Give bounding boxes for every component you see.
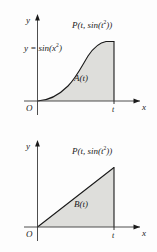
triangle-area-figure: y x O t P(t, sin(t2)) B(t) [0,126,157,252]
x-axis-label: x [142,229,146,238]
area-under-curve-figure: y x O t y = sin(x2) P(t, sin(t2)) A(t) [0,0,157,126]
figure-page: y x O t y = sin(x2) P(t, sin(t2)) A(t) y… [0,0,157,252]
point-label-P: P(t, sin(t2)) [72,147,112,156]
x-axis-arrowhead [134,225,141,230]
figure-top-graphics [0,0,157,126]
curve-equation-suffix: ) [59,43,62,53]
curve-equation-prefix: y = sin( [24,43,52,53]
y-axis-arrowhead [35,140,40,147]
y-axis-label: y [26,16,30,25]
region-label-A: A(t) [74,74,88,83]
region-label-B-arg: (t) [80,199,89,209]
region-label-A-arg: (t) [80,73,89,83]
point-label-suffix: )) [106,20,112,30]
x-axis-label: x [142,103,146,112]
point-label-mid: , sin( [83,146,101,156]
region-label-B: B(t) [74,200,88,209]
x-tick-label-t: t [112,232,114,240]
origin-label: O [26,230,33,239]
origin-label: O [26,104,33,113]
y-axis-arrowhead [35,14,40,21]
figure-bottom-graphics [0,126,157,252]
point-label-suffix: )) [106,146,112,156]
point-label-mid: , sin( [83,20,101,30]
y-axis-label: y [26,142,30,151]
point-label-prefix: P( [72,146,81,156]
x-axis-arrowhead [134,99,141,104]
x-tick-label-t: t [112,106,114,114]
point-label-prefix: P( [72,20,81,30]
curve-equation-label: y = sin(x2) [24,44,62,53]
point-label-P: P(t, sin(t2)) [72,21,112,30]
